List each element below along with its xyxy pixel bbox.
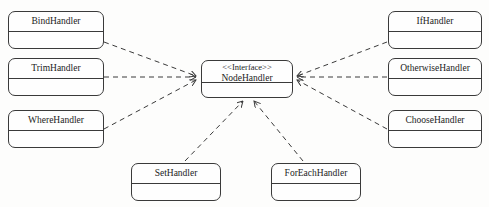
- class-attributes-wherehandler: [9, 131, 103, 147]
- class-name-nodehandler: <<Interface>> NodeHandler: [202, 61, 292, 83]
- class-name-choosehandler: ChooseHandler: [389, 111, 481, 131]
- class-attributes-bindhandler: [9, 32, 103, 48]
- edge-bind-to-nodehandler: [104, 42, 196, 76]
- class-attributes-foreachhandler: [272, 184, 360, 200]
- class-box-ifhandler[interactable]: IfHandler: [388, 11, 482, 49]
- class-name-wherehandler: WhereHandler: [9, 111, 103, 131]
- class-box-sethandler[interactable]: SetHandler: [131, 163, 221, 201]
- class-attributes-otherwisehandler: [389, 79, 481, 95]
- edge-if-to-nodehandler: [297, 42, 387, 76]
- interface-name-label: NodeHandler: [202, 73, 292, 84]
- class-name-bindhandler: BindHandler: [9, 12, 103, 32]
- class-box-trimhandler[interactable]: TrimHandler: [8, 58, 104, 96]
- class-name-foreachhandler: ForEachHandler: [272, 164, 360, 184]
- class-attributes-choosehandler: [389, 131, 481, 147]
- interface-stereotype-label: <<Interface>>: [202, 62, 292, 73]
- class-attributes-nodehandler: [202, 83, 292, 97]
- edge-foreach-to-nodehandler: [254, 101, 303, 161]
- class-name-ifhandler: IfHandler: [389, 12, 481, 32]
- class-name-trimhandler: TrimHandler: [9, 59, 103, 79]
- class-name-sethandler: SetHandler: [132, 164, 220, 184]
- edge-choose-to-nodehandler: [297, 80, 387, 129]
- class-box-bindhandler[interactable]: BindHandler: [8, 11, 104, 49]
- class-box-wherehandler[interactable]: WhereHandler: [8, 110, 104, 148]
- class-box-nodehandler-interface[interactable]: <<Interface>> NodeHandler: [201, 60, 293, 98]
- class-attributes-sethandler: [132, 184, 220, 200]
- edge-where-to-nodehandler: [104, 80, 196, 129]
- uml-class-diagram: BindHandler TrimHandler WhereHandler <<I…: [0, 0, 489, 207]
- edge-set-to-nodehandler: [185, 101, 243, 161]
- class-box-otherwisehandler[interactable]: OtherwiseHandler: [388, 58, 482, 96]
- class-box-foreachhandler[interactable]: ForEachHandler: [271, 163, 361, 201]
- class-name-otherwisehandler: OtherwiseHandler: [389, 59, 481, 79]
- class-box-choosehandler[interactable]: ChooseHandler: [388, 110, 482, 148]
- class-attributes-ifhandler: [389, 32, 481, 48]
- class-attributes-trimhandler: [9, 79, 103, 95]
